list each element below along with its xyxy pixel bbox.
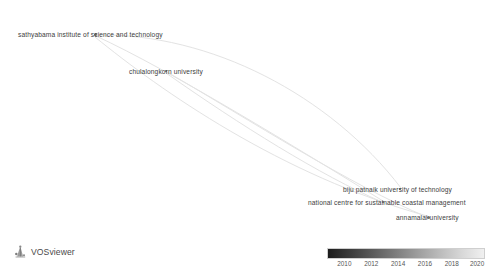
colorbar-tick-2018: 2018 [445,260,459,267]
colorbar-tick-2020: 2020 [470,260,484,267]
node-label-national-centre[interactable]: national centre for sustainable coastal … [308,198,466,207]
colorbar-tick-2014: 2014 [391,260,405,267]
link-sathyabama-biju [97,35,401,188]
vosviewer-map[interactable]: sathyabama institute of science and tech… [0,0,489,280]
colorbar-tick-2012: 2012 [364,260,378,267]
vosviewer-logo-icon [14,245,27,259]
node-label-chulalongkorn[interactable]: chulalongkorn university [129,67,203,76]
year-colorbar-legend: 2010 2012 2014 2016 2018 2020 [327,248,485,272]
vosviewer-logo[interactable]: VOSviewer [11,243,80,261]
network-links-layer [0,0,489,280]
node-label-sathyabama[interactable]: sathyabama institute of science and tech… [18,30,163,39]
node-label-biju-patnaik[interactable]: biju patnaik university of technology [343,185,452,194]
colorbar-tick-labels: 2010 2012 2014 2016 2018 2020 [327,260,485,272]
colorbar-tick-2016: 2016 [418,260,432,267]
link-sathyabama-national [96,36,383,201]
link-chulalongkorn-national [166,73,382,202]
colorbar-tick-2010: 2010 [337,260,351,267]
node-label-annamalai[interactable]: annamalai university [396,213,459,222]
vosviewer-logo-text: VOSviewer [31,247,75,257]
colorbar-gradient [327,248,485,259]
